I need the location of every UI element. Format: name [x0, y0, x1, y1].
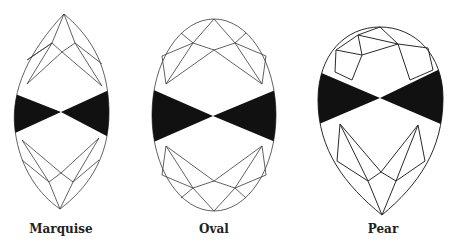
- marquise-bowtie: [0, 85, 120, 143]
- marquise-label: Marquise: [11, 222, 111, 236]
- pear-gem: [310, 27, 450, 215]
- oval-gem: [140, 19, 290, 211]
- gem-diagram: [0, 0, 456, 249]
- oval-label: Oval: [164, 222, 264, 236]
- oval-bowtie: [140, 84, 290, 148]
- marquise-gem: [0, 14, 120, 209]
- pear-label: Pear: [333, 222, 433, 236]
- pear-bowtie: [310, 64, 450, 128]
